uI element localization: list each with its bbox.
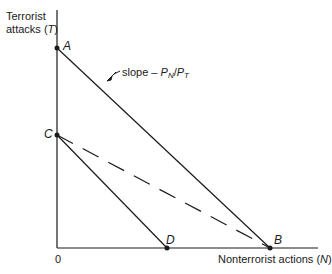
point-b-label: B (274, 234, 282, 247)
point-c-label: C (44, 128, 53, 141)
line-cd (57, 135, 167, 248)
x-axis-label-prefix: Nonterrorist actions ( (218, 253, 320, 265)
slope-label-prefix: slope – (122, 66, 161, 78)
slope-denominator-sub: T (184, 71, 189, 80)
y-axis-label-line1: Terrorist (6, 10, 58, 23)
y-axis-label-line2: attacks (T) (6, 23, 58, 36)
point-d-label: D (166, 234, 175, 247)
slope-leader-arrow-icon (107, 71, 120, 81)
point-c-marker (55, 133, 60, 138)
y-axis-label: Terrorist attacks (T) (6, 10, 58, 36)
point-a-label: A (63, 40, 71, 53)
x-axis-label: Nonterrorist actions (N) (218, 253, 332, 266)
slope-annotation: slope – PN/PT (122, 66, 189, 82)
line-cb-dashed (57, 135, 270, 248)
x-axis-var: N (320, 253, 328, 265)
origin-label: 0 (55, 253, 61, 266)
y-axis-label-suffix: ) (54, 23, 58, 35)
slope-denominator: P (177, 66, 184, 78)
slope-numerator: P (161, 66, 168, 78)
y-axis-label-prefix: attacks ( (6, 23, 48, 35)
point-a-marker (55, 46, 60, 51)
x-axis-label-suffix: ) (328, 253, 332, 265)
point-b-marker (268, 246, 273, 251)
